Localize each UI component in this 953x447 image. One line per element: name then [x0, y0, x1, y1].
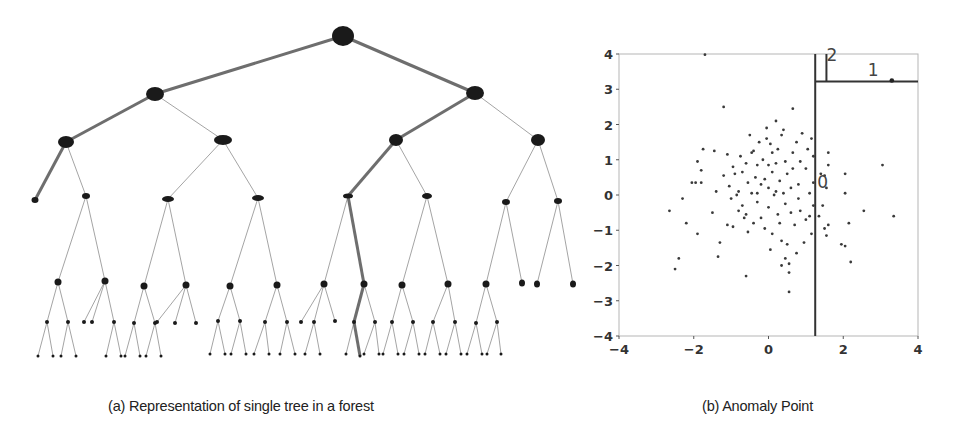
data-point: [784, 202, 787, 205]
split-label-0: 0: [817, 172, 828, 192]
data-point: [747, 181, 750, 184]
data-point: [767, 206, 770, 209]
data-point: [881, 164, 884, 167]
data-point: [771, 151, 774, 154]
data-point: [713, 150, 716, 153]
data-point: [799, 160, 802, 163]
data-point: [780, 264, 783, 267]
data-point: [806, 148, 809, 151]
data-point: [754, 176, 757, 179]
data-point: [769, 248, 772, 251]
data-point: [735, 194, 738, 197]
data-point: [761, 158, 764, 161]
y-tick-label: −2: [593, 259, 613, 274]
data-point: [788, 262, 791, 265]
data-point: [840, 243, 843, 246]
data-point: [844, 192, 847, 195]
data-point: [775, 190, 778, 193]
data-point: [780, 134, 783, 137]
data-point: [801, 132, 804, 135]
anomaly-point: [890, 78, 895, 83]
x-tick-label: 4: [913, 342, 922, 357]
y-tick-label: 2: [604, 118, 613, 133]
y-tick-label: 0: [604, 188, 613, 203]
data-points: [668, 53, 895, 293]
y-tick-label: −3: [593, 294, 613, 309]
data-point: [717, 255, 720, 258]
data-point: [827, 164, 830, 167]
data-point: [767, 164, 770, 167]
data-point: [791, 167, 794, 170]
data-point: [769, 142, 772, 145]
data-point: [758, 141, 761, 144]
data-point: [795, 252, 798, 255]
x-tick-label: 2: [839, 342, 848, 357]
data-point: [790, 187, 793, 190]
data-point: [732, 225, 735, 228]
data-point: [728, 185, 731, 188]
data-point: [756, 164, 759, 167]
data-point: [726, 224, 729, 227]
data-point: [732, 165, 735, 168]
data-point: [726, 153, 729, 156]
y-tick-label: 4: [604, 47, 613, 62]
data-point: [771, 171, 774, 174]
split-label-1: 1: [868, 60, 879, 80]
split-label-2: 2: [827, 45, 838, 65]
y-tick-label: 3: [604, 82, 613, 97]
plot-frame: [619, 54, 918, 336]
data-point: [793, 224, 796, 227]
data-point: [803, 241, 806, 244]
data-point: [760, 183, 763, 186]
data-point: [752, 222, 755, 225]
data-point: [748, 134, 751, 137]
data-point: [741, 171, 744, 174]
data-point: [730, 197, 733, 200]
data-point: [782, 128, 785, 131]
data-point: [788, 291, 791, 294]
data-point: [791, 107, 794, 110]
data-point: [782, 192, 785, 195]
data-point: [827, 224, 830, 227]
data-point: [771, 232, 774, 235]
data-point: [694, 181, 697, 184]
data-point: [776, 148, 779, 151]
data-point: [767, 187, 770, 190]
data-point: [778, 222, 781, 225]
data-point: [696, 232, 699, 235]
x-tick-label: 0: [764, 342, 773, 357]
data-point: [804, 218, 807, 221]
data-point: [804, 167, 807, 170]
data-point: [760, 217, 763, 220]
data-point: [747, 231, 750, 234]
data-point: [681, 197, 684, 200]
data-point: [810, 232, 813, 235]
data-point: [862, 209, 865, 212]
caption-tree: (a) Representation of single tree in a f…: [108, 398, 374, 414]
x-tick-label: −4: [609, 342, 629, 357]
data-point: [892, 215, 895, 218]
data-point: [790, 211, 793, 214]
data-point: [743, 217, 746, 220]
data-point: [704, 53, 707, 56]
data-point: [788, 271, 791, 274]
data-point: [685, 222, 688, 225]
data-point: [739, 155, 742, 158]
data-point: [711, 211, 714, 214]
data-point: [797, 197, 800, 200]
data-point: [745, 275, 748, 278]
y-tick-label: −4: [593, 329, 613, 344]
data-point: [795, 141, 798, 144]
data-point: [690, 181, 693, 184]
anomaly-scatter-plot: −4−2024−4−3−2−101234012: [0, 0, 953, 380]
data-point: [808, 192, 811, 195]
data-point: [775, 162, 778, 165]
data-point: [797, 183, 800, 186]
caption-anomaly-point: (b) Anomaly Point: [702, 398, 813, 414]
data-point: [849, 261, 852, 264]
data-point: [733, 172, 736, 175]
data-point: [722, 174, 725, 177]
data-point: [808, 215, 811, 218]
data-point: [750, 192, 753, 195]
data-point: [719, 241, 722, 244]
